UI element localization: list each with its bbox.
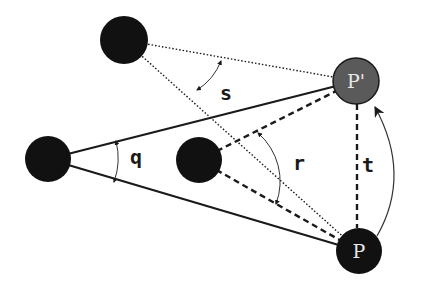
node-left — [25, 136, 71, 182]
geometry-diagram: P' P q r s t — [0, 0, 424, 294]
edge-top-to-p — [124, 40, 359, 251]
angle-label-q: q — [130, 145, 142, 169]
rotation-arrow-t — [375, 107, 394, 236]
node-label-p-prime: P' — [347, 70, 365, 92]
angle-arc-q — [114, 141, 118, 182]
node-top — [100, 16, 148, 64]
edge-middle-to-p — [199, 160, 359, 251]
angle-label-r: r — [293, 151, 305, 175]
angle-arc-r — [258, 133, 280, 204]
node-label-p: P — [353, 240, 366, 262]
angle-arc-s — [197, 61, 221, 90]
angle-label-s: s — [220, 81, 232, 105]
angle-label-t: t — [362, 153, 374, 177]
edge-top-to-p-prime — [124, 40, 356, 81]
node-middle — [176, 137, 222, 183]
